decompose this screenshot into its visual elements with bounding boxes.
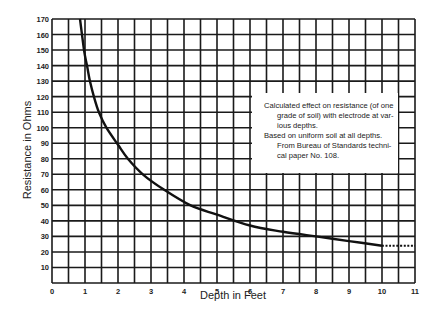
y-axis-title: Resistance in Ohms [21, 100, 33, 199]
y-tick-label: 30 [41, 232, 49, 241]
y-tick-label: 150 [36, 46, 49, 55]
y-tick-label: 130 [36, 77, 49, 86]
y-tick-label: 80 [41, 155, 49, 164]
annotation-line: Calculated effect on resistance (of one [264, 101, 394, 111]
annotation-line: Based on uniform soil at all depths. [264, 131, 394, 141]
y-tick-label: 100 [36, 124, 49, 133]
x-tick-label: 1 [83, 287, 87, 296]
y-tick-label: 90 [41, 139, 49, 148]
y-tick-label: 10 [41, 263, 49, 272]
annotation-line: ious depths. [264, 121, 394, 131]
x-tick-label: 4 [182, 287, 187, 296]
y-tick-label: 160 [36, 31, 49, 40]
x-tick-label: 2 [116, 287, 120, 296]
y-tick-label: 60 [41, 186, 49, 195]
annotation-line: From Bureau of Standards techni- [264, 141, 394, 151]
annotation-box: Calculated effect on resistance (of one … [252, 93, 398, 173]
y-tick-label: 170 [36, 15, 49, 24]
x-tick-label: 3 [149, 287, 153, 296]
annotation-line: cal paper No. 108. [264, 151, 394, 161]
y-tick-label: 50 [41, 201, 49, 210]
y-tick-label: 20 [41, 248, 49, 257]
x-tick-label: 11 [411, 287, 419, 296]
annotation-line: grade of soil) with electrode at var- [264, 111, 394, 121]
x-tick-label: 8 [314, 287, 318, 296]
x-tick-label: 9 [347, 287, 351, 296]
x-tick-label: 10 [378, 287, 386, 296]
y-tick-label: 140 [36, 62, 49, 71]
y-tick-label: 120 [36, 93, 49, 102]
x-tick-label: 0 [50, 287, 54, 296]
y-tick-label: 110 [37, 108, 49, 117]
x-tick-label: 7 [281, 287, 285, 296]
y-tick-label: 40 [41, 217, 49, 226]
x-axis-title: Depth in Feet [200, 289, 266, 301]
y-tick-label: 70 [41, 170, 49, 179]
